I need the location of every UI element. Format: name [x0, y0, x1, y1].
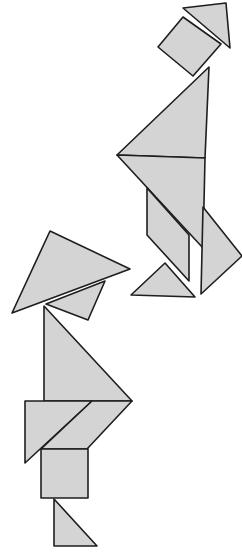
lower-leg-square — [41, 449, 88, 498]
lower-figure — [12, 231, 132, 546]
upper-large-triangle — [117, 67, 209, 158]
upper-right-medium-triangle — [201, 207, 242, 294]
upper-figure — [117, 3, 242, 297]
lower-foot-small-triangle — [54, 499, 97, 546]
tangram-drawing — [0, 0, 242, 556]
tangram-canvas — [0, 0, 242, 556]
